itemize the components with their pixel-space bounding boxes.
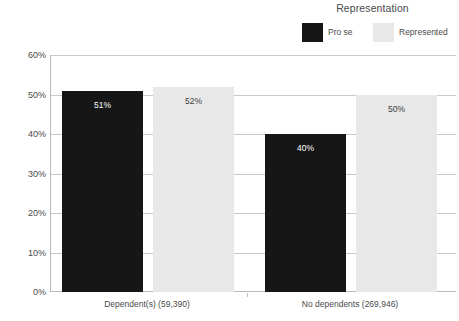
y-axis-tick-label: 50% (2, 90, 46, 100)
bar-value-label: 51% (62, 100, 143, 110)
x-axis-tick-label-no-dependents: No dependents (269,946) (302, 299, 398, 309)
bar-value-label: 50% (356, 104, 437, 114)
y-axis-tick-label: 40% (2, 129, 46, 139)
bar-value-label: 52% (153, 96, 234, 106)
gridline-60 (51, 55, 456, 56)
y-axis: 60% 50% 40% 30% 20% 10% 0% (0, 55, 46, 292)
y-axis-tick-label: 20% (2, 208, 46, 218)
y-axis-tick-label: 60% (2, 50, 46, 60)
bar-represented-dependents[interactable]: 52% (153, 87, 234, 293)
bar-pro-se-dependents[interactable]: 51% (62, 91, 143, 293)
bar-represented-no-dependents[interactable]: 50% (356, 95, 437, 293)
plot-area: 51% 52% 40% 50% (50, 55, 455, 292)
legend-item-pro-se[interactable]: Pro se (302, 22, 353, 42)
legend-swatch-icon-represented (373, 23, 394, 42)
legend-title: Representation (286, 2, 459, 14)
y-axis-tick-label: 10% (2, 248, 46, 258)
legend-swatch-icon-pro-se (302, 23, 323, 42)
legend-item-label-represented: Represented (399, 27, 448, 37)
legend-item-label-pro-se: Pro se (328, 27, 353, 37)
legend-item-represented[interactable]: Represented (373, 22, 448, 42)
x-axis-tick-label-dependents: Dependent(s) (59,390) (104, 299, 190, 309)
x-axis-tick-mark (247, 293, 248, 297)
legend: Representation Pro se Represented (286, 2, 459, 44)
bar-pro-se-no-dependents[interactable]: 40% (265, 134, 346, 292)
y-axis-tick-label: 0% (2, 287, 46, 297)
bar-value-label: 40% (265, 143, 346, 153)
y-axis-tick-label: 30% (2, 169, 46, 179)
x-axis: Dependent(s) (59,390) No dependents (269… (50, 293, 455, 315)
